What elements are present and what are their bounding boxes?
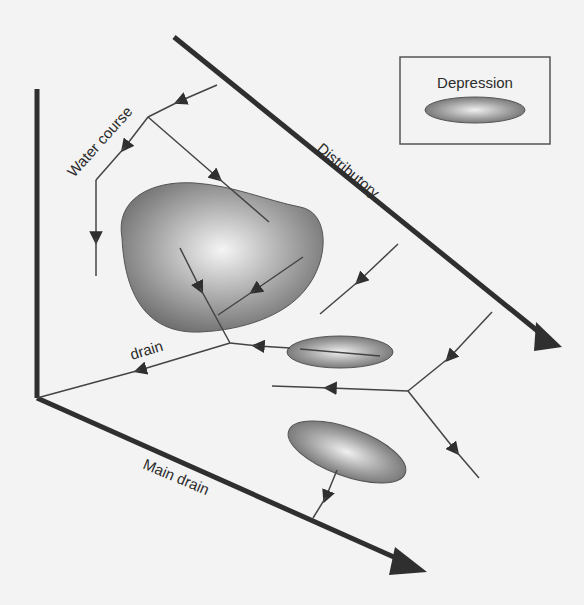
main-drain-arrowhead-icon [389,547,427,575]
legend-depression-swatch [425,97,525,123]
drainage-diagram: Depression [0,0,584,605]
label-water-course: Water course [64,103,136,180]
label-distributory: Distributory [314,139,383,201]
lower-depression [281,408,414,496]
distributory-arrowhead-icon [534,322,562,351]
main-drain [37,89,427,575]
large-depression [121,183,323,332]
legend-title: Depression [437,74,513,91]
label-drain: drain [128,337,165,363]
legend: Depression [400,57,550,144]
